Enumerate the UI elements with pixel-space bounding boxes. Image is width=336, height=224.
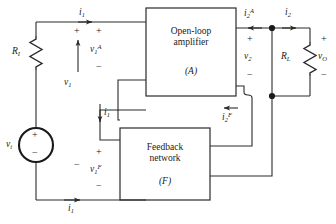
v2-plus: + (247, 34, 253, 44)
vO-minus: − (321, 70, 327, 80)
label-i2F: i2F (222, 112, 232, 123)
vO-plus: + (321, 34, 327, 44)
v1F-sup: F (97, 163, 101, 170)
label-vO: vO (318, 52, 327, 62)
amplifier-symbol: (A) (146, 66, 236, 77)
wire-series-link (118, 110, 120, 120)
wire-amp-out-hop (244, 92, 252, 108)
feedback-line2: network (120, 153, 210, 164)
v1F-minus: − (96, 181, 102, 191)
feedback-box-label: Feedback network (120, 142, 210, 164)
label-v1A: v1A (90, 44, 101, 55)
wire-amp-lower-input (118, 80, 146, 110)
label-i1-top: i1 (79, 8, 85, 18)
wire-node-to-fb-lower (210, 96, 272, 176)
amplifier-line1: Open-loop (146, 26, 236, 37)
v2-sub: 2 (248, 55, 251, 62)
label-i2A: i2A (244, 8, 254, 19)
circuit-diagram: Open-loop amplifier (A) Feedback network… (0, 0, 336, 224)
feedback-box-outline (120, 128, 210, 200)
i1-mid-sub: 1 (107, 111, 110, 118)
i2-sub: 2 (288, 11, 291, 18)
amplifier-line2: amplifier (146, 37, 236, 48)
resistor-ri-label: RI (12, 47, 20, 57)
feedback-line1: Feedback (120, 142, 210, 153)
i2A-sup: A (250, 7, 254, 14)
source-minus: − (32, 148, 38, 158)
i1-bot-sub: 1 (71, 207, 74, 214)
i1-top-sub: 1 (82, 11, 85, 18)
v1-sub: 1 (68, 81, 71, 88)
i2F-sup: F (228, 111, 232, 118)
v1F-plus: + (96, 147, 102, 157)
label-v2: v2 (244, 52, 251, 62)
wire-fb-upper-input (100, 110, 120, 140)
resistor-rl-symbol (304, 42, 316, 76)
junction-dot-top (269, 25, 275, 31)
vi-sub: i (10, 143, 12, 150)
ri-sub: I (18, 50, 20, 57)
junction-dot-bottom (269, 93, 275, 99)
feedback-symbol: (F) (120, 176, 210, 187)
wire-amp-out-bot-a (236, 86, 244, 92)
v1A-minus: − (96, 62, 102, 72)
source-plus: + (32, 130, 38, 140)
v1A-plus: + (96, 26, 102, 36)
label-i1-bottom: i1 (68, 204, 74, 214)
v2-minus: − (247, 70, 253, 80)
amplifier-box-label: Open-loop amplifier (146, 26, 236, 48)
label-v1: v1 (64, 78, 71, 88)
resistor-rl-label: RL (281, 52, 290, 62)
label-i2: i2 (285, 8, 291, 18)
label-i1-mid: i1 (104, 108, 110, 118)
vO-sub: O (322, 55, 327, 62)
amplifier-box-outline (146, 8, 236, 96)
source-label: vi (6, 140, 12, 150)
rl-sub: L (287, 55, 291, 62)
label-v1F: v1F (90, 164, 101, 175)
v1-minus: − (74, 160, 80, 170)
v1A-sup: A (97, 43, 101, 50)
v1-plus: + (74, 26, 80, 36)
resistor-ri-symbol (30, 36, 42, 70)
